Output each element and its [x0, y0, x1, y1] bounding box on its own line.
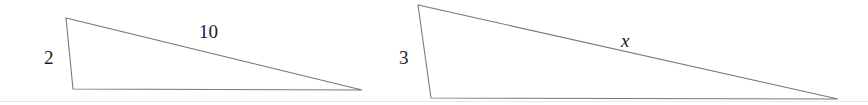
- right-triangle-short-side-label: 3: [399, 48, 409, 67]
- right-triangle: [418, 5, 838, 99]
- right-triangle-outline: [418, 5, 838, 99]
- similar-triangles-figure: 2 10 3 x: [0, 0, 868, 105]
- triangles-canvas: [0, 0, 868, 105]
- left-triangle-short-side-label: 2: [44, 48, 54, 67]
- right-triangle-long-side-label: x: [621, 31, 629, 50]
- left-triangle-long-side-label: 10: [199, 22, 218, 41]
